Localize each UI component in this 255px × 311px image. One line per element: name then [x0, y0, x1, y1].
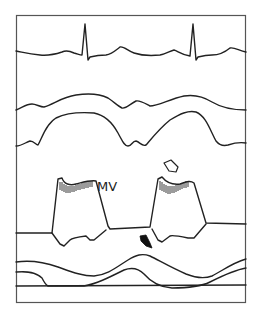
diagram-frame	[17, 16, 246, 303]
mv-flutter-hatching-2	[160, 181, 188, 194]
epicardium-trace	[16, 255, 246, 278]
baseline-trace	[16, 285, 246, 286]
aortic-root-posterior-trace	[16, 111, 246, 146]
mv-label: MV	[97, 179, 117, 194]
mmode-echo-diagram: MV	[0, 0, 255, 311]
lv-posterior-wall-trace	[52, 224, 206, 246]
open-arrow-icon	[164, 160, 178, 172]
filled-arrow-icon	[140, 235, 152, 248]
mitral-valve-trace-cycle-1	[16, 177, 246, 233]
aortic-root-anterior-trace	[16, 94, 246, 110]
ecg-trace	[16, 24, 246, 60]
